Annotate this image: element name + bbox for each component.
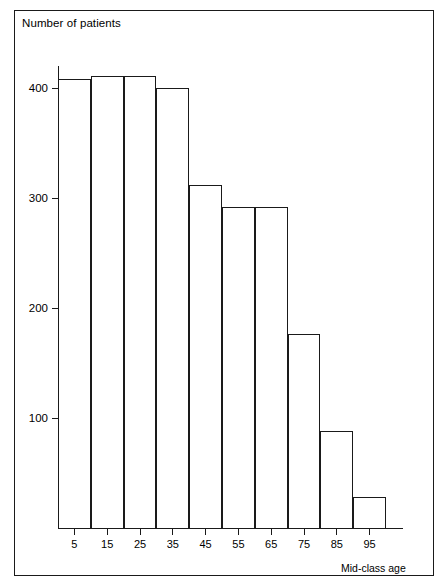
y-axis-tick-label: 100 [14, 412, 48, 424]
x-axis-tick-label: 65 [265, 538, 277, 550]
x-axis-tick [336, 528, 337, 535]
x-axis-tick-label: 55 [232, 538, 244, 550]
x-axis-tick-label: 5 [71, 538, 77, 550]
histogram-bar [91, 76, 124, 528]
histogram-bar [156, 88, 189, 528]
x-axis-tick-label: 75 [298, 538, 310, 550]
y-axis-tick-label: 400 [14, 82, 48, 94]
x-axis-tick [107, 528, 108, 535]
histogram-bar [189, 185, 222, 528]
x-axis-tick-label: 95 [363, 538, 375, 550]
x-axis-title: Mid-class age [341, 562, 406, 574]
y-axis-title: Number of patients [22, 17, 121, 29]
x-axis-tick [304, 528, 305, 535]
histogram-bar [288, 334, 321, 528]
histogram-bar [320, 431, 353, 528]
x-axis-tick [205, 528, 206, 535]
histogram-bar [124, 76, 157, 528]
x-axis-tick [271, 528, 272, 535]
x-axis-tick-label: 35 [167, 538, 179, 550]
x-axis-tick-label: 15 [101, 538, 113, 550]
x-axis-tick-label: 45 [199, 538, 211, 550]
histogram-bar [58, 79, 91, 528]
x-axis-tick [238, 528, 239, 535]
x-axis-tick [172, 528, 173, 535]
x-axis-tick [140, 528, 141, 535]
x-axis-tick [369, 528, 370, 535]
x-axis-tick-label: 85 [331, 538, 343, 550]
histogram-bar [255, 207, 288, 528]
y-axis-tick-label: 300 [14, 192, 48, 204]
y-axis-tick-label: 200 [14, 302, 48, 314]
histogram-figure: Number of patients 100200300400 51525354… [0, 0, 448, 586]
x-axis-tick [74, 528, 75, 535]
x-axis-tick-label: 25 [134, 538, 146, 550]
histogram-bar [353, 497, 386, 528]
histogram-bar [222, 207, 255, 528]
